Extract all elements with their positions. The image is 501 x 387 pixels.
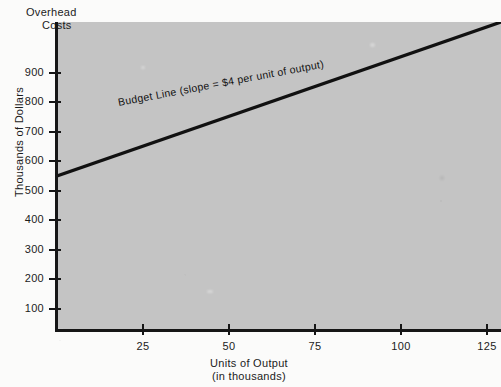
y-axis-tick-label: 100 xyxy=(10,302,44,314)
y-axis-tick xyxy=(49,278,61,280)
y-axis-title: Thousands of Dollars xyxy=(13,77,25,207)
x-axis-tick xyxy=(486,324,488,335)
x-axis-tick xyxy=(228,324,230,335)
x-axis-line xyxy=(55,329,501,332)
y-axis-tick xyxy=(49,72,61,74)
x-axis-tick xyxy=(314,324,316,335)
y-axis-tick xyxy=(49,131,61,133)
chart-figure: 900 800 700 600 500 400 300 200 100 25 5… xyxy=(0,0,501,387)
chart-title-line-1: Overhead xyxy=(22,6,132,19)
y-axis-tick xyxy=(49,190,61,192)
x-axis-tick-label: 125 xyxy=(467,340,501,352)
chart-title: Overhead Costs xyxy=(22,6,132,32)
y-axis-tick xyxy=(49,219,61,221)
y-axis-tick-label: 400 xyxy=(10,213,44,225)
x-axis-title: Units of Output (in thousands) xyxy=(149,357,349,383)
y-axis-tick-label: 200 xyxy=(10,272,44,284)
y-axis-tick xyxy=(49,160,61,162)
x-axis-tick-label: 75 xyxy=(295,340,335,352)
x-axis-tick xyxy=(142,324,144,335)
x-axis-title-line-2: (in thousands) xyxy=(149,370,349,383)
y-axis-line xyxy=(55,22,58,332)
x-axis-tick-label: 100 xyxy=(381,340,421,352)
x-axis-tick-label: 50 xyxy=(209,340,249,352)
x-axis-tick-label: 25 xyxy=(123,340,163,352)
y-axis-tick xyxy=(49,308,61,310)
x-axis-tick xyxy=(400,324,402,335)
y-axis-tick xyxy=(49,101,61,103)
chart-title-line-2: Costs xyxy=(22,19,132,32)
y-axis-tick-label: 300 xyxy=(10,243,44,255)
y-axis-tick xyxy=(49,249,61,251)
x-axis-title-line-1: Units of Output xyxy=(149,357,349,370)
